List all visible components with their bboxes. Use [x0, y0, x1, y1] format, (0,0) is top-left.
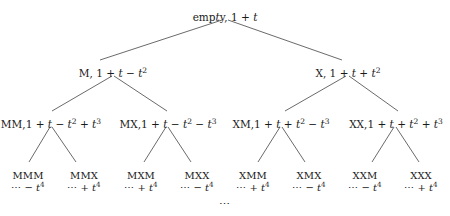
tree-node-MX: MX,1 + t − t2 − t3 [119, 119, 216, 131]
tree-edge-M-MX [114, 76, 167, 111]
tree-node-XM: XM,1 + t + t2 − t3 [232, 119, 329, 131]
node-label-MX: MX,1 + t − t2 − t3 [119, 119, 216, 131]
tree-node-XMX: XMX⋯ − t4 [292, 170, 325, 193]
bottom-ellipsis: ⋯ [219, 198, 231, 211]
tree-edge-M-MM [52, 76, 112, 111]
node-series-MMM: ⋯ − t4 [11, 182, 44, 193]
tree-node-XMM: XMM⋯ + t4 [236, 170, 269, 193]
tree-edge-MM-MMX [52, 127, 76, 162]
tree-node-X: X, 1 + t + t2 [315, 68, 380, 80]
tree-edge-root-M [100, 20, 222, 60]
node-series-MXX: ⋯ − t4 [180, 182, 213, 193]
node-label-X: X, 1 + t + t2 [315, 68, 380, 80]
tree-node-XXX: XXX⋯ + t4 [404, 170, 437, 193]
tree-edge-root-X [228, 20, 342, 60]
tree-edge-XX-XXM [372, 127, 394, 162]
tree-node-M: M, 1 + t − t2 [79, 68, 147, 80]
tree-node-MMX: MMX⋯ + t4 [67, 170, 100, 193]
tree-edge-MX-MXM [144, 127, 166, 162]
tree-edge-XM-XMX [282, 127, 305, 162]
tree-node-MM: MM,1 + t − t2 + t3 [1, 119, 101, 131]
node-label-M: M, 1 + t − t2 [79, 68, 147, 80]
node-label-root: empty, 1 + t [193, 12, 258, 24]
tree-edge-XM-XMM [258, 127, 280, 162]
tree-edge-MX-MXX [168, 127, 191, 162]
node-series-MXM: ⋯ + t4 [124, 182, 157, 193]
tree-node-root: empty, 1 + t [193, 12, 258, 24]
node-label-XM: XM,1 + t + t2 − t3 [232, 119, 329, 131]
node-series-XMX: ⋯ − t4 [292, 182, 325, 193]
node-series-XXX: ⋯ + t4 [404, 182, 437, 193]
tree-edge-XX-XXX [396, 127, 419, 162]
tree-node-MXM: MXM⋯ + t4 [124, 170, 157, 193]
node-series-XXM: ⋯ − t4 [348, 182, 381, 193]
node-label-MM: MM,1 + t − t2 + t3 [1, 119, 101, 131]
tree-edge-MM-MMM [29, 127, 50, 162]
tree-node-MMM: MMM⋯ − t4 [11, 170, 44, 193]
node-series-MMX: ⋯ + t4 [67, 182, 100, 193]
tree-edge-X-XM [285, 76, 346, 111]
tree-edge-X-XX [349, 76, 398, 111]
node-label-XX: XX,1 + t + t2 + t3 [349, 119, 443, 131]
tree-diagram: empty, 1 + tM, 1 + t − t2X, 1 + t + t2MM… [0, 0, 450, 216]
tree-node-XXM: XXM⋯ − t4 [348, 170, 381, 193]
node-series-XMM: ⋯ + t4 [236, 182, 269, 193]
tree-node-MXX: MXX⋯ − t4 [180, 170, 213, 193]
tree-node-XX: XX,1 + t + t2 + t3 [349, 119, 443, 131]
